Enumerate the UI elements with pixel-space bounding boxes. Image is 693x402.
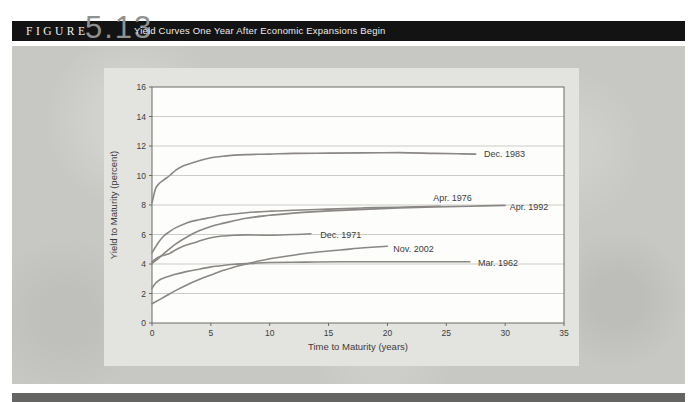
figure-header-bar: FIGURE 5.13 Yield Curves One Year After … [12,21,685,41]
curve-label-nov-2002: Nov. 2002 [393,244,433,254]
y-axis-title: Yield to Maturity (percent) [108,151,119,259]
y-tick-label: 6 [141,230,146,240]
figure-title: Yield Curves One Year After Economic Exp… [134,21,386,41]
x-tick-label: 10 [265,328,275,338]
x-tick-label: 15 [324,328,334,338]
page-bottom-rule [12,393,685,402]
y-tick-label: 10 [137,171,147,181]
curve-label-dec-1971: Dec. 1971 [320,230,361,240]
y-tick-label: 8 [141,200,146,210]
x-tick-label: 20 [383,328,393,338]
curve-label-dec-1983: Dec. 1983 [484,149,525,159]
curve-label-mar-1962: Mar. 1962 [478,258,518,268]
x-tick-label: 30 [500,328,510,338]
x-axis-title: Time to Maturity (years) [308,341,408,352]
x-tick-label: 5 [208,328,213,338]
y-tick-label: 2 [141,289,146,299]
y-tick-label: 0 [141,318,146,328]
curve-label-apr-1992: Apr. 1992 [510,202,549,212]
yield-curve-chart: 051015202530350246810121416Dec. 1983Apr.… [104,68,579,366]
x-tick-label: 0 [150,328,155,338]
y-tick-label: 12 [137,141,147,151]
x-tick-label: 35 [559,328,569,338]
chart-panel: 051015202530350246810121416Dec. 1983Apr.… [104,68,579,366]
curve-label-apr-1976: Apr. 1976 [433,193,472,203]
x-tick-label: 25 [442,328,452,338]
y-tick-label: 16 [137,82,147,92]
figure-label: FIGURE [26,21,89,41]
figure-background-band: 051015202530350246810121416Dec. 1983Apr.… [12,46,685,384]
y-tick-label: 14 [137,112,147,122]
y-tick-label: 4 [141,259,146,269]
